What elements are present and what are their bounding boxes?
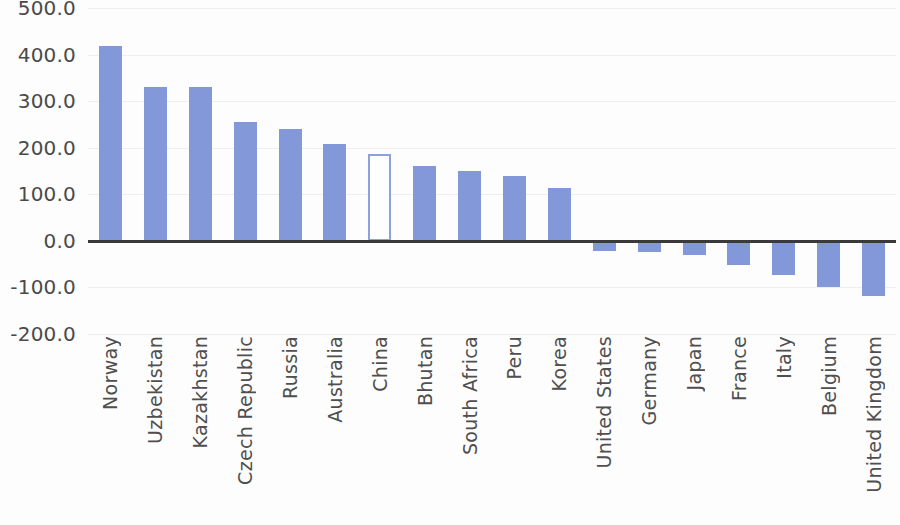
x-axis-label: China <box>369 336 391 392</box>
x-axis-label: Russia <box>279 336 301 399</box>
bar <box>144 87 167 241</box>
y-axis: 500.0400.0300.0200.0100.00.0-100.0-200.0 <box>0 0 82 340</box>
bar <box>458 171 481 241</box>
x-axis-label: United States <box>593 336 615 469</box>
bar <box>279 129 302 241</box>
x-axis-category-labels: NorwayUzbekistanKazakhstanCzech Republic… <box>88 336 896 525</box>
zero-baseline <box>88 240 896 243</box>
gridline <box>88 8 896 9</box>
bar <box>368 154 391 241</box>
bar <box>234 122 257 241</box>
bar <box>99 46 122 241</box>
x-axis-label: Belgium <box>818 336 840 416</box>
x-axis-label: Kazakhstan <box>189 336 211 448</box>
bar <box>189 87 212 241</box>
bar <box>683 241 706 255</box>
y-axis-tick-label: -100.0 <box>10 275 76 299</box>
gridline <box>88 287 896 288</box>
x-axis-label: Germany <box>638 336 660 425</box>
y-axis-tick-label: 400.0 <box>18 43 76 67</box>
x-axis-label: Peru <box>503 336 525 380</box>
bar <box>503 176 526 241</box>
gridline <box>88 334 896 335</box>
y-axis-tick-label: 0.0 <box>44 229 76 253</box>
x-axis-label: Bhutan <box>414 336 436 406</box>
bar <box>817 241 840 288</box>
x-axis-label: Korea <box>548 336 570 391</box>
x-axis-label: Norway <box>99 336 121 410</box>
bar <box>323 144 346 241</box>
bar <box>862 241 885 296</box>
plot-area <box>88 8 896 334</box>
y-axis-tick-label: -200.0 <box>10 322 76 346</box>
x-axis-label: Italy <box>773 336 795 379</box>
bar <box>548 188 571 241</box>
x-axis-label: South Africa <box>459 336 481 455</box>
x-axis-label: France <box>728 336 750 401</box>
x-axis-label: Australia <box>324 336 346 423</box>
y-axis-tick-label: 300.0 <box>18 89 76 113</box>
y-axis-tick-label: 500.0 <box>18 0 76 20</box>
y-axis-tick-label: 100.0 <box>18 182 76 206</box>
x-axis-label: United Kingdom <box>863 336 885 493</box>
x-axis-label: Czech Republic <box>234 336 256 485</box>
gridline <box>88 55 896 56</box>
bar-chart: 500.0400.0300.0200.0100.00.0-100.0-200.0… <box>0 0 900 525</box>
bar <box>727 241 750 265</box>
bar <box>413 166 436 241</box>
y-axis-tick-label: 200.0 <box>18 136 76 160</box>
bar <box>772 241 795 275</box>
x-axis-label: Uzbekistan <box>144 336 166 444</box>
x-axis-label: Japan <box>683 336 705 391</box>
